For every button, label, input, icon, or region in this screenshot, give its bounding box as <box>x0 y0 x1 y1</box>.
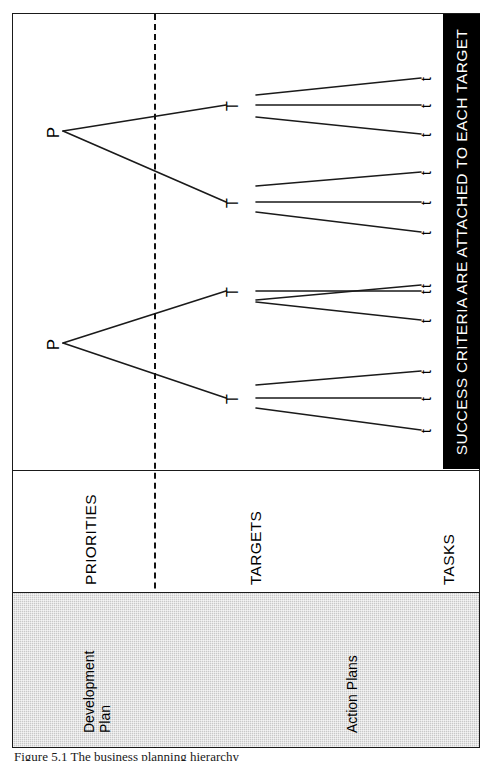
figure-caption: Figure 5.1 The business planning hierarc… <box>14 749 434 761</box>
node-priority-1: P <box>45 127 62 138</box>
band-label-action-plans: Action Plans <box>344 655 360 733</box>
node-task-5: t <box>419 201 433 205</box>
success-criteria-banner: SUCCESS CRITERIA ARE ATTACHED TO EACH TA… <box>443 14 480 469</box>
section-divider-upper <box>12 470 480 471</box>
success-criteria-banner-label: SUCCESS CRITERIA ARE ATTACHED TO EACH TA… <box>453 28 471 455</box>
node-task-9: t <box>419 319 433 323</box>
node-task-10: t <box>419 370 433 374</box>
column-label-targets: TARGETS <box>247 511 265 585</box>
node-target-4: T <box>225 394 241 404</box>
figure-root: P P T T T T t t t t t t t t t t t t SUCC… <box>0 0 492 761</box>
node-task-12: t <box>419 429 433 433</box>
band-label-development-plan: Development Plan <box>82 651 113 734</box>
node-task-4: t <box>419 171 433 175</box>
node-task-11: t <box>419 397 433 401</box>
node-task-3: t <box>419 133 433 137</box>
node-task-6: t <box>419 231 433 235</box>
node-task-8: t <box>419 290 433 294</box>
node-target-2: T <box>225 198 241 208</box>
node-task-2: t <box>419 104 433 108</box>
column-label-priorities: PRIORITIES <box>82 494 100 585</box>
node-target-1: T <box>225 101 241 111</box>
column-label-tasks: TASKS <box>440 534 458 585</box>
node-task-7: t <box>419 284 433 288</box>
node-task-1: t <box>419 77 433 81</box>
node-target-3: T <box>225 287 241 297</box>
node-priority-2: P <box>45 339 62 350</box>
